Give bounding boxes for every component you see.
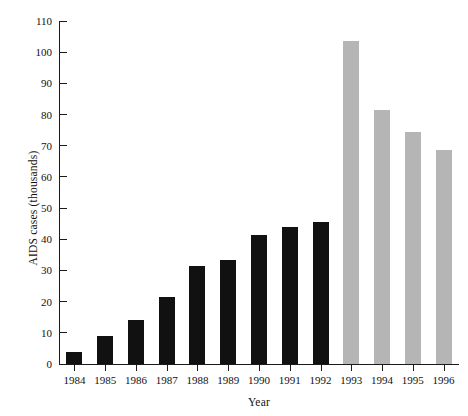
bar-1986 <box>128 320 144 364</box>
y-tick-label: 110 <box>6 16 52 26</box>
x-tick-label: 1995 <box>397 373 428 387</box>
x-tick-label: 1990 <box>244 373 275 387</box>
x-tick-label: 1985 <box>90 373 121 387</box>
x-tick-mark <box>136 365 137 371</box>
y-axis-line <box>59 21 60 365</box>
y-tick-label-wrap: 30 <box>0 265 52 275</box>
bar-1993 <box>343 41 359 364</box>
x-tick-mark <box>197 365 198 371</box>
y-tick-label: 10 <box>6 328 52 338</box>
bar-1987 <box>159 297 175 364</box>
x-tick-label: 1989 <box>213 373 244 387</box>
y-tick-label: 100 <box>6 47 52 57</box>
y-tick-mark <box>60 52 67 53</box>
y-tick-mark <box>60 114 67 115</box>
x-tick-mark <box>382 365 383 371</box>
y-tick-label-wrap: 110 <box>0 16 52 26</box>
y-tick-mark <box>60 83 67 84</box>
y-tick-label: 20 <box>6 297 52 307</box>
y-tick-mark <box>60 332 67 333</box>
y-tick-mark <box>60 145 67 146</box>
x-tick-label: 1992 <box>305 373 336 387</box>
aids-cases-bar-chart: AIDS cases (thousands) 01020304050607080… <box>0 0 468 416</box>
y-tick-label-wrap: 80 <box>0 110 52 120</box>
x-tick-mark <box>321 365 322 371</box>
y-tick-label-wrap: 10 <box>0 328 52 338</box>
y-tick-mark <box>60 208 67 209</box>
x-tick-mark <box>259 365 260 371</box>
x-tick-mark <box>228 365 229 371</box>
bar-1991 <box>282 227 298 364</box>
bar-1984 <box>66 352 82 364</box>
bar-1990 <box>251 235 267 364</box>
y-tick-label: 70 <box>6 141 52 151</box>
x-tick-mark <box>351 365 352 371</box>
y-tick-mark <box>60 21 67 22</box>
x-tick-label: 1991 <box>274 373 305 387</box>
bar-1992 <box>313 222 329 364</box>
y-tick-label: 80 <box>6 110 52 120</box>
y-tick-mark <box>60 301 67 302</box>
x-tick-label: 1988 <box>182 373 213 387</box>
y-tick-mark <box>60 239 67 240</box>
x-tick-mark <box>74 365 75 371</box>
y-tick-label-wrap: 0 <box>0 359 52 369</box>
bar-1996 <box>436 150 452 364</box>
y-tick-label: 30 <box>6 265 52 275</box>
x-tick-label: 1984 <box>59 373 90 387</box>
x-tick-label: 1987 <box>151 373 182 387</box>
x-tick-label: 1986 <box>121 373 152 387</box>
y-tick-label-wrap: 70 <box>0 141 52 151</box>
y-tick-label-wrap: 60 <box>0 172 52 182</box>
y-tick-label-wrap: 100 <box>0 47 52 57</box>
bar-1994 <box>374 110 390 364</box>
x-tick-mark <box>105 365 106 371</box>
bar-1995 <box>405 132 421 364</box>
x-tick-label: 1996 <box>428 373 459 387</box>
y-tick-label-wrap: 20 <box>0 297 52 307</box>
x-axis-title: Year <box>59 396 459 408</box>
bar-1989 <box>220 260 236 364</box>
y-tick-mark <box>60 176 67 177</box>
y-tick-mark <box>60 270 67 271</box>
y-tick-label-wrap: 50 <box>0 203 52 213</box>
bar-1985 <box>97 336 113 364</box>
x-tick-mark <box>444 365 445 371</box>
y-tick-label: 50 <box>6 203 52 213</box>
x-tick-label: 1993 <box>336 373 367 387</box>
y-tick-label-wrap: 90 <box>0 78 52 88</box>
x-tick-mark <box>167 365 168 371</box>
y-tick-label: 60 <box>6 172 52 182</box>
x-tick-mark <box>290 365 291 371</box>
bar-1988 <box>189 266 205 364</box>
x-tick-mark <box>413 365 414 371</box>
x-tick-label: 1994 <box>367 373 398 387</box>
y-tick-label-wrap: 40 <box>0 234 52 244</box>
y-tick-label: 40 <box>6 234 52 244</box>
y-tick-label: 0 <box>6 359 52 369</box>
y-tick-label: 90 <box>6 78 52 88</box>
